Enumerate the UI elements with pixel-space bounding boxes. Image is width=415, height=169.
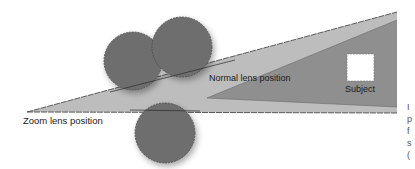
subject-box — [347, 54, 374, 81]
caption-fragment: f — [407, 125, 412, 137]
zoom-lens-label: Zoom lens position — [23, 115, 103, 126]
normal-lens-label: Normal lens position — [209, 73, 291, 83]
caption-fragment: s — [407, 137, 412, 149]
caption-fragment: I — [407, 101, 412, 113]
lens-circle-lower — [135, 103, 195, 163]
caption-fragment: ( — [407, 149, 412, 161]
caption-fragment: p — [407, 113, 412, 125]
clipped-caption-text: I p f s ( — [407, 101, 412, 161]
subject-label: Subject — [345, 84, 375, 94]
